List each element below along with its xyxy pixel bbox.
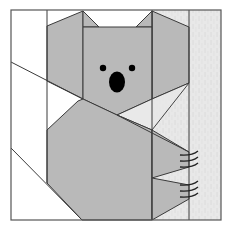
koala-diagram bbox=[0, 0, 231, 228]
right-eye bbox=[129, 65, 135, 71]
koala-head bbox=[83, 27, 152, 115]
koala-quilt-block: Koala quilt block pattern bbox=[0, 0, 231, 228]
nose bbox=[109, 72, 125, 93]
left-eye bbox=[100, 65, 106, 71]
